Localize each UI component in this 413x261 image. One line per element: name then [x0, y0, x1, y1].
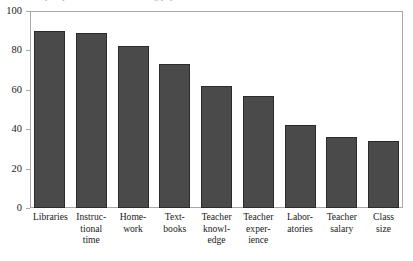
bar-slot [158, 12, 191, 208]
bar-slot [117, 12, 150, 208]
x-axis-label-line: tional [75, 223, 108, 235]
x-axis-labels: LibrariesInstruc-tionaltimeHome-workText… [31, 211, 402, 261]
y-axis-tick-label: 80 [12, 43, 23, 56]
x-axis-label-line: books [158, 223, 191, 235]
y-axis-tick-label: 100 [6, 4, 22, 17]
x-axis-category-label: Home-work [117, 211, 150, 261]
y-axis-tick-label: 40 [12, 122, 23, 135]
x-axis-category-label: Text-books [158, 211, 191, 261]
y-axis-tick-mark [26, 90, 30, 91]
x-axis-label-line: time [75, 234, 108, 246]
bar-slot [284, 12, 317, 208]
x-axis-label-line: work [117, 223, 150, 235]
y-axis-tick-label: 0 [17, 201, 22, 214]
x-axis-label-line: ience [242, 234, 275, 246]
x-axis-label-line: Labor- [284, 211, 317, 223]
x-axis-label-line: Instruc- [75, 211, 108, 223]
x-axis-label-line: Home- [117, 211, 150, 223]
y-axis-tick-label: 60 [12, 83, 23, 96]
x-axis-label-line: size [367, 223, 400, 235]
x-axis-label-line: Text- [158, 211, 191, 223]
x-axis-category-label: Libraries [33, 211, 66, 261]
bar-slot [33, 12, 66, 208]
y-axis-tick-mark [26, 129, 30, 130]
y-axis-tick-mark [26, 50, 30, 51]
x-axis-label-line: knowl- [200, 223, 233, 235]
x-axis-category-label: Teacherexper-ience [242, 211, 275, 261]
bar[interactable] [326, 137, 357, 208]
x-axis-category-label: Labor-atories [284, 211, 317, 261]
x-axis-category-label: Classsize [367, 211, 400, 261]
x-axis-label-line: atories [284, 223, 317, 235]
bar[interactable] [34, 31, 65, 208]
x-axis-category-label: Teachersalary [325, 211, 358, 261]
x-axis-category-label: Teacherknowl-edge [200, 211, 233, 261]
x-axis-label-line: Class [367, 211, 400, 223]
y-axis-tick-mark [26, 11, 30, 12]
bar-slot [325, 12, 358, 208]
bar[interactable] [159, 64, 190, 208]
x-axis-label-line: Teacher [200, 211, 233, 223]
x-axis-label-line: exper- [242, 223, 275, 235]
clipped-chart-title: Survey responses on factors affecting pu… [0, 0, 413, 2]
bar-slot [242, 12, 275, 208]
bar[interactable] [118, 46, 149, 208]
chart-title-text: Survey responses on factors affecting pu… [0, 0, 413, 2]
bar-slot [75, 12, 108, 208]
bar[interactable] [243, 96, 274, 208]
x-axis-label-line: Libraries [33, 211, 66, 223]
y-axis-tick-mark [26, 208, 30, 209]
x-axis-label-line: salary [325, 223, 358, 235]
bar-slot [200, 12, 233, 208]
bar[interactable] [368, 141, 399, 208]
x-axis-label-line: Teacher [325, 211, 358, 223]
bar-series [31, 12, 402, 208]
y-axis-tick-label: 20 [12, 162, 23, 175]
bar[interactable] [285, 125, 316, 208]
x-axis-label-line: Teacher [242, 211, 275, 223]
y-axis-tick-mark [26, 169, 30, 170]
x-axis-category-label: Instruc-tionaltime [75, 211, 108, 261]
bar-chart-figure: Survey responses on factors affecting pu… [0, 0, 413, 261]
x-axis-label-line: edge [200, 234, 233, 246]
bar[interactable] [201, 86, 232, 208]
y-axis: 020406080100 [0, 0, 30, 261]
bar-slot [367, 12, 400, 208]
bar[interactable] [76, 33, 107, 208]
